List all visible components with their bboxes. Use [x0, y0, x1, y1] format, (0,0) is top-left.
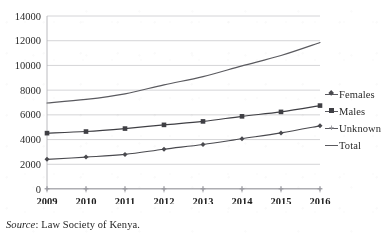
x-axis-tick-label: 2013 — [193, 196, 214, 205]
y-axis-tick-label: 6000 — [20, 109, 41, 120]
y-axis-tick-label: 14000 — [15, 11, 41, 22]
square-marker-icon — [240, 114, 245, 119]
figure-line-chart: 0200040006000800010000120001400020092010… — [0, 0, 392, 237]
square-marker-icon — [325, 106, 338, 117]
cross-marker-icon — [318, 186, 323, 191]
x-axis-tick-label: 2012 — [154, 196, 175, 205]
legend-label: Females — [338, 89, 375, 100]
x-axis-tick-label: 2011 — [115, 196, 135, 205]
diamond-marker-icon — [325, 89, 338, 100]
y-axis-tick-label: 0 — [36, 184, 41, 195]
series-total — [47, 43, 320, 103]
cross-marker-icon — [45, 186, 50, 191]
square-marker-icon — [45, 131, 50, 136]
diamond-marker-icon — [240, 136, 245, 141]
diamond-marker-icon — [162, 147, 167, 152]
diamond-marker-icon — [45, 157, 50, 162]
source-prefix: Source — [6, 219, 35, 230]
square-marker-icon — [201, 119, 206, 124]
x-axis-tick-label: 2014 — [232, 196, 254, 205]
diamond-marker-icon — [279, 130, 284, 135]
diamond-marker-icon — [318, 123, 323, 128]
legend-label: Unknown — [338, 123, 381, 134]
cross-marker-icon — [325, 123, 338, 134]
cross-marker-icon — [240, 186, 245, 191]
y-axis-tick-label: 12000 — [15, 35, 41, 46]
legend-label: Total — [338, 140, 361, 151]
square-marker-icon — [123, 126, 128, 131]
x-axis-tick-label: 2015 — [271, 196, 292, 205]
line-marker-icon — [325, 140, 338, 151]
legend-item-unknown[interactable]: Unknown — [325, 120, 392, 137]
cross-marker-icon — [279, 186, 284, 191]
source-caption: Source: Law Society of Kenya. — [6, 219, 140, 230]
legend-label: Males — [338, 106, 365, 117]
legend-item-total[interactable]: Total — [325, 137, 392, 154]
cross-marker-icon — [123, 186, 128, 191]
x-axis-tick-label: 2016 — [310, 196, 331, 205]
cross-marker-icon — [201, 186, 206, 191]
series-unknown — [45, 186, 323, 191]
cross-marker-icon — [162, 186, 167, 191]
x-axis-tick-label: 2010 — [76, 196, 97, 205]
cross-marker-icon — [84, 186, 89, 191]
square-marker-icon — [318, 103, 323, 108]
series-males — [45, 103, 323, 135]
square-marker-icon — [279, 110, 284, 115]
diamond-marker-icon — [123, 152, 128, 157]
diamond-marker-icon — [201, 142, 206, 147]
square-marker-icon — [162, 123, 167, 128]
y-axis-tick-label: 2000 — [20, 159, 41, 170]
series-line — [47, 43, 320, 103]
y-axis-tick-label: 4000 — [20, 134, 41, 145]
y-axis-tick-label: 8000 — [20, 85, 41, 96]
x-axis-tick-label: 2009 — [37, 196, 58, 205]
source-text: Law Society of Kenya. — [41, 219, 140, 230]
chart-legend: Females Males Unknown Total — [325, 86, 392, 154]
series-females — [45, 123, 323, 161]
square-marker-icon — [84, 129, 89, 134]
figure-title-cropped — [8, 0, 384, 3]
legend-item-females[interactable]: Females — [325, 86, 392, 103]
legend-item-males[interactable]: Males — [325, 103, 392, 120]
diamond-marker-icon — [84, 155, 89, 160]
y-axis-tick-label: 10000 — [15, 60, 41, 71]
